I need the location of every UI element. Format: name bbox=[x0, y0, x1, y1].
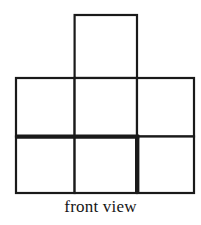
upper-middle-square bbox=[75, 78, 137, 137]
lower-right-square bbox=[137, 137, 194, 194]
figure-caption: front view bbox=[0, 196, 201, 218]
upper-left-square bbox=[16, 78, 75, 137]
top-middle-square bbox=[75, 15, 137, 78]
upper-right-square bbox=[137, 78, 194, 137]
lower-left-square bbox=[16, 137, 75, 194]
front-view-figure: front view bbox=[0, 0, 201, 225]
cube-stack-diagram bbox=[0, 0, 201, 225]
lower-middle-square bbox=[75, 137, 137, 194]
